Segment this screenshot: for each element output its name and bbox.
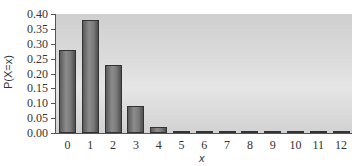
y-tick-label: 0.00 (0, 127, 48, 139)
bar (196, 131, 213, 133)
y-tick-mark (51, 14, 55, 15)
x-tick-label: 2 (103, 139, 123, 151)
bar (219, 131, 236, 133)
x-axis-line (55, 133, 352, 134)
x-tick-label: 0 (58, 139, 78, 151)
y-tick-mark (51, 103, 55, 104)
x-tick-label: 8 (240, 139, 260, 151)
bar (82, 20, 99, 133)
bar (105, 65, 122, 133)
bar (173, 131, 190, 133)
plot-area (56, 14, 352, 133)
y-tick-mark (51, 44, 55, 45)
x-tick-label: 12 (331, 139, 351, 151)
bar (59, 50, 76, 133)
bar (264, 131, 281, 133)
y-tick-mark (51, 88, 55, 89)
x-axis-title: x (199, 152, 205, 164)
bar (310, 131, 327, 133)
bar (333, 131, 350, 133)
y-axis-line (55, 14, 56, 134)
y-tick-mark (51, 118, 55, 119)
y-tick-mark (51, 59, 55, 60)
x-tick-label: 4 (149, 139, 169, 151)
bar (150, 127, 167, 133)
x-tick-label: 7 (217, 139, 237, 151)
y-tick-label: 0.35 (0, 23, 48, 35)
x-tick-label: 11 (308, 139, 328, 151)
bar (287, 131, 304, 133)
x-tick-label: 1 (80, 139, 100, 151)
x-tick-label: 5 (172, 139, 192, 151)
x-tick-label: 9 (263, 139, 283, 151)
y-tick-label: 0.40 (0, 8, 48, 20)
x-tick-label: 6 (194, 139, 214, 151)
x-tick-label: 10 (286, 139, 306, 151)
y-tick-label: 0.05 (0, 112, 48, 124)
bar (241, 131, 258, 133)
x-tick-label: 3 (126, 139, 146, 151)
y-axis-title: P(X=x) (2, 42, 14, 102)
y-tick-mark (51, 74, 55, 75)
y-tick-mark (51, 29, 55, 30)
bar (127, 106, 144, 133)
y-tick-mark (51, 133, 55, 134)
